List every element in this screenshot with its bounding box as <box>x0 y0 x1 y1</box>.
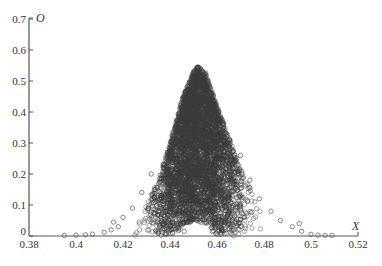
x-tick-label: 0.46 <box>207 238 227 250</box>
y-tick-label: 0.4 <box>12 106 26 118</box>
x-tick-label: 0.42 <box>113 238 132 250</box>
y-ticks: 00.10.20.30.40.50.60.7 <box>12 13 33 237</box>
x-tick-label: 0.5 <box>304 238 318 250</box>
x-tick-label: 0.52 <box>348 238 367 250</box>
scatter-points <box>62 65 334 239</box>
x-axis-label: X <box>351 219 360 233</box>
x-tick-label: 0.38 <box>19 238 39 250</box>
y-tick-label: 0.6 <box>12 44 26 56</box>
x-tick-label: 0.44 <box>160 238 180 250</box>
y-tick-label: 0.2 <box>12 168 26 180</box>
x-tick-label: 0.4 <box>69 238 83 250</box>
y-axis-label: O <box>36 11 45 25</box>
y-tick-label: 0.3 <box>12 137 26 149</box>
y-tick-label: 0 <box>21 225 27 237</box>
y-tick-label: 0.1 <box>12 199 26 211</box>
scatter-chart: 00.10.20.30.40.50.60.7 0.380.40.420.440.… <box>0 0 382 266</box>
x-ticks: 0.380.40.420.440.460.480.50.52 <box>19 238 367 250</box>
y-tick-label: 0.7 <box>12 13 26 25</box>
x-tick-label: 0.48 <box>254 238 274 250</box>
y-tick-label: 0.5 <box>12 75 26 87</box>
